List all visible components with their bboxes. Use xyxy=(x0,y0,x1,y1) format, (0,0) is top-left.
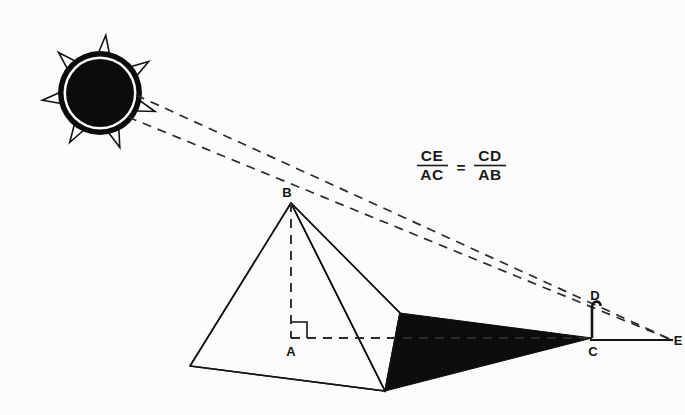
diagram-canvas: B A D C E CE AC = CD AB xyxy=(0,0,685,415)
formula-numerator-left: CE xyxy=(421,147,444,164)
formula-numerator-right: CD xyxy=(478,147,501,164)
formula-denominator-left: AC xyxy=(420,166,443,183)
sun-ray-through-d xyxy=(136,95,672,340)
pyramid-front-edge xyxy=(291,203,385,391)
proportion-formula: CE AC = CD AB xyxy=(417,147,506,183)
label-e: E xyxy=(674,333,683,348)
right-angle-marker xyxy=(291,322,307,338)
pyramid-shadow-diagram: B A D C E CE AC = CD AB xyxy=(0,0,685,415)
pyramid-left-edge xyxy=(190,203,291,366)
sun-graphic xyxy=(42,35,155,147)
sun-ray-through-b xyxy=(128,117,672,340)
label-d: D xyxy=(590,288,599,303)
pyramid-left-face xyxy=(190,203,385,391)
pyramid xyxy=(190,203,400,391)
pyramid-base-front-edge xyxy=(190,366,385,391)
label-b: B xyxy=(282,185,291,200)
measuring-staff xyxy=(592,302,601,338)
label-a: A xyxy=(286,344,296,359)
label-c: C xyxy=(588,344,598,359)
pyramid-rear-edge xyxy=(291,203,400,313)
sun-disc xyxy=(66,59,134,127)
formula-equals: = xyxy=(456,159,465,176)
pyramid-shadow xyxy=(385,313,592,391)
formula-denominator-right: AB xyxy=(478,166,501,183)
